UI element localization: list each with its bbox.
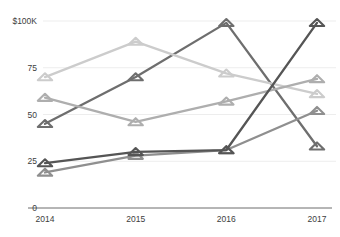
x-tick-label: 2014 [36, 214, 55, 224]
y-axis-tick-labels: 0255075$100K [12, 16, 37, 213]
series-1 [38, 19, 324, 149]
gridlines [43, 21, 336, 161]
line-chart: 0255075$100K 2014201520162017 [0, 0, 340, 237]
series-line [45, 111, 317, 173]
chart-screenshot: 0255075$100K 2014201520162017 [0, 0, 340, 237]
y-tick-label: 0 [32, 203, 37, 213]
y-tick-label: $100K [12, 16, 37, 26]
series-2 [38, 107, 324, 176]
x-tick-label: 2015 [126, 214, 145, 224]
series-5 [38, 19, 324, 166]
y-tick-label: 25 [28, 156, 38, 166]
series-4 [38, 75, 324, 125]
x-tick-label: 2016 [217, 214, 236, 224]
series-line [45, 23, 317, 163]
series-lines [38, 19, 324, 176]
y-tick-label: 75 [28, 63, 38, 73]
y-tick-label: 50 [28, 110, 38, 120]
x-tick-label: 2017 [308, 214, 327, 224]
x-axis-tick-labels: 2014201520162017 [36, 214, 327, 224]
